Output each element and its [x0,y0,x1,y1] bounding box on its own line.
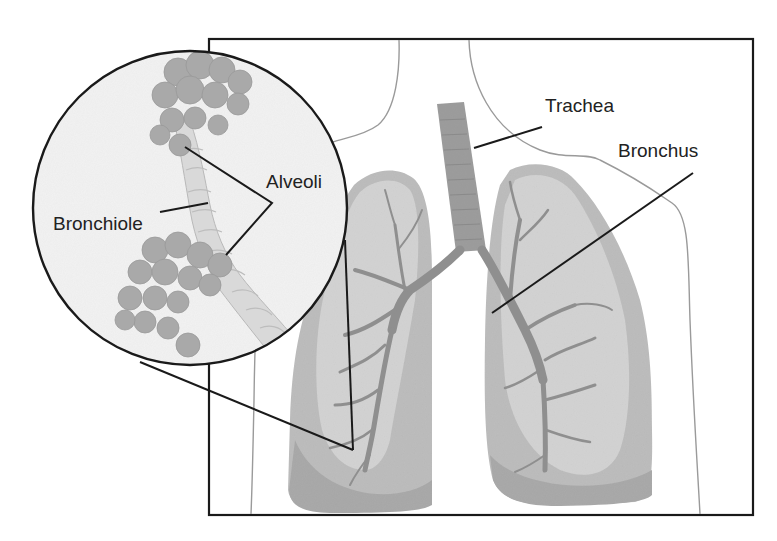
respiratory-diagram: Trachea Bronchus Alveoli Bronchiole [0,0,777,541]
magnified-inset [33,51,347,365]
diagram-canvas [0,0,777,541]
bronchiole-label: Bronchiole [53,214,143,233]
bronchus-label: Bronchus [618,141,698,160]
trachea-label: Trachea [545,96,614,115]
alveoli-label: Alveoli [266,172,322,191]
